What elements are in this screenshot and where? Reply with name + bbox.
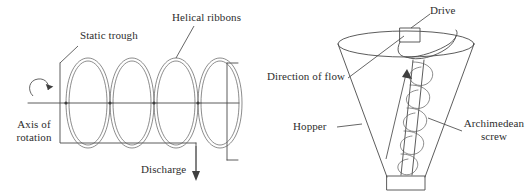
- label-drive: Drive: [430, 4, 456, 17]
- figure-container: Static trough Helical ribbons Axis of ro…: [0, 0, 527, 195]
- helical-ribbons-leader: [176, 26, 194, 58]
- ribbon-node-3: [152, 101, 155, 104]
- rotation-arrow-icon: [30, 79, 54, 96]
- label-static-trough: Static trough: [80, 29, 138, 42]
- hopper-leader: [337, 124, 362, 127]
- label-helical-ribbons: Helical ribbons: [172, 11, 241, 24]
- drive-housing-lower: [406, 36, 456, 59]
- drive-leader: [411, 14, 430, 28]
- drive-box: [400, 28, 420, 42]
- hopper-rim: [338, 31, 474, 57]
- archimedean-screw-line-2: screw: [462, 130, 526, 143]
- archimedean-screw-leader: [428, 118, 462, 131]
- hopper-right-wall: [425, 44, 474, 177]
- label-hopper: Hopper: [293, 120, 327, 133]
- left-diagram-group: [28, 26, 242, 181]
- flow-arrow-icon: [386, 69, 412, 159]
- label-direction-of-flow: Direction of flow: [267, 70, 345, 83]
- ribbon-node-1: [64, 101, 67, 104]
- discharge-arrow-icon: [192, 146, 200, 181]
- label-archimedean-screw: Archimedean screw: [462, 117, 526, 142]
- archimedean-screw-line-1: Archimedean: [462, 117, 526, 130]
- ribbon-node-2: [108, 101, 111, 104]
- hopper-outlet: [387, 176, 425, 190]
- label-axis-of-rotation: Axis of rotation: [6, 118, 62, 143]
- hopper-left-wall: [338, 44, 387, 177]
- ribbon-node-4: [196, 101, 199, 104]
- right-diagram-group: [337, 14, 474, 190]
- axis-of-rotation-line-1: Axis of: [6, 118, 62, 131]
- axis-of-rotation-line-2: rotation: [6, 131, 62, 144]
- label-discharge: Discharge: [141, 163, 186, 176]
- static-trough-leader: [60, 46, 78, 63]
